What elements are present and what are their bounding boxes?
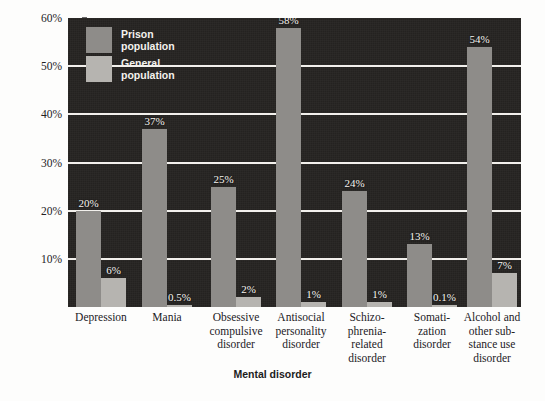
bar-label-prison-2: 25% [213, 173, 233, 185]
bar-label-prison-4: 24% [344, 177, 364, 189]
bar-label-general-3: 1% [306, 288, 321, 300]
bar-general-2 [236, 297, 261, 307]
x-category-label-1: Mania [135, 311, 200, 325]
bar-label-prison-1: 37% [144, 115, 164, 127]
y-axis-ticks: 10%20%30%40%50%60% [20, 0, 62, 401]
bar-label-general-4: 1% [372, 288, 387, 300]
bar-prison-0 [76, 211, 101, 307]
y-tick-label-50: 50% [24, 60, 62, 72]
bar-label-prison-6: 54% [469, 33, 489, 45]
y-tick-label-10: 10% [24, 253, 62, 265]
bar-general-6 [492, 273, 517, 307]
legend-item-1: General population [86, 56, 175, 82]
bar-label-general-2: 2% [241, 283, 256, 295]
bar-prison-1 [142, 129, 167, 307]
y-tick-label-30: 30% [24, 157, 62, 169]
bar-label-general-6: 7% [497, 259, 512, 271]
bar-prison-6 [467, 47, 492, 307]
bar-prison-5 [407, 244, 432, 307]
figure-caption-clipped [14, 392, 444, 401]
bar-prison-3 [276, 28, 301, 307]
x-axis-title: Mental disorder [0, 368, 545, 380]
x-axis-category-labels: DepressionManiaObsessive compulsive diso… [68, 311, 521, 371]
y-tick-label-40: 40% [24, 108, 62, 120]
x-category-label-2: Obsessive compulsive disorder [204, 311, 269, 352]
x-category-label-6: Alcohol and other sub- stance use disord… [460, 311, 525, 365]
chart-figure: Percentage with mental disorder 10%20%30… [0, 0, 545, 401]
bar-prison-4 [342, 191, 367, 307]
legend-item-0: Prison population [86, 27, 175, 53]
y-tick-label-20: 20% [24, 205, 62, 217]
bar-general-4 [367, 302, 392, 307]
legend-label-1: General population [121, 57, 175, 82]
bar-general-5 [432, 305, 457, 307]
bar-general-1 [167, 305, 192, 307]
bar-label-prison-5: 13% [409, 230, 429, 242]
bar-label-prison-0: 20% [78, 197, 98, 209]
bar-label-general-0: 6% [106, 264, 121, 276]
bar-general-0 [101, 278, 126, 307]
x-category-label-5: Somati- zation disorder [400, 311, 465, 352]
bar-label-general-1: 0.5% [168, 291, 191, 303]
bar-general-3 [301, 302, 326, 307]
bar-label-prison-3: 58% [278, 18, 298, 26]
x-category-label-4: Schizo- phrenia- related disorder [335, 311, 400, 365]
legend-swatch-prison [86, 27, 112, 53]
x-category-label-0: Depression [69, 311, 134, 325]
y-tick-label-60: 60% [24, 12, 62, 24]
legend-label-0: Prison population [121, 28, 175, 53]
x-category-label-3: Antisocial personality disorder [269, 311, 334, 352]
legend-swatch-general [86, 56, 112, 82]
bar-label-general-5: 0.1% [433, 291, 456, 303]
legend: Prison populationGeneral population [86, 27, 175, 85]
plot-area: 20%6%37%0.5%25%2%58%1%24%1%13%0.1%54%7% … [68, 18, 521, 307]
bar-prison-2 [211, 187, 236, 307]
